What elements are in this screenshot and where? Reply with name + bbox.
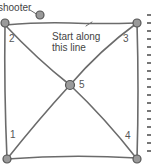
marble-5-label: 5	[79, 80, 85, 90]
top-edge-line	[5, 23, 137, 25]
cropped-side-text	[146, 8, 151, 158]
marble-5	[66, 81, 75, 90]
marble-1-label: 1	[10, 130, 16, 140]
diagram-drawing	[0, 0, 151, 166]
marble-2-label: 2	[9, 34, 15, 44]
marble-3-label: 3	[123, 34, 129, 44]
shooter-marble	[36, 11, 44, 19]
shooter-label: shooter	[0, 2, 31, 13]
left-edge-line	[5, 25, 7, 159]
marble-2	[1, 19, 9, 27]
right-edge-line	[137, 23, 138, 159]
marble-4	[133, 155, 141, 163]
bottom-edge-line	[7, 156, 137, 159]
marble-4-label: 4	[125, 131, 131, 141]
start-line-label-2: this line	[52, 42, 86, 53]
marble-1	[3, 155, 11, 163]
marble-3	[133, 19, 141, 27]
start-line-label-1: Start along	[52, 31, 100, 42]
marble-game-diagram: shooter Start along this line 2 3 1 4 5	[0, 0, 151, 166]
